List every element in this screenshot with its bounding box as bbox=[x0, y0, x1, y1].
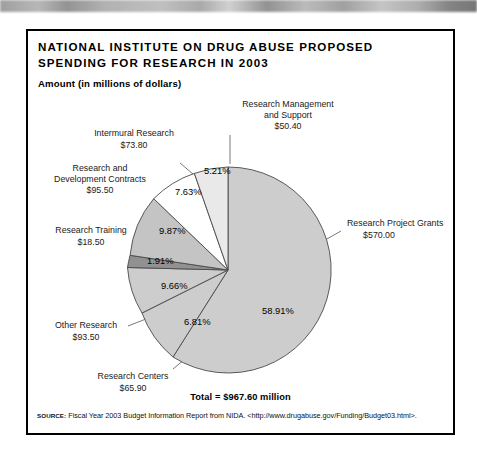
callout-research-training-line1: Research Training bbox=[55, 225, 126, 235]
callout-research-development-contracts-line1: Research and bbox=[73, 163, 128, 173]
callout-research-management-support-amount: $50.40 bbox=[275, 121, 302, 131]
callout-research-development-contracts-amount: $95.50 bbox=[87, 185, 114, 195]
callout-research-management-support-line1: Research Management bbox=[242, 99, 334, 109]
callout-research-project-grants-line1: Research Project Grants bbox=[347, 218, 444, 228]
callout-other-research-amount: $93.50 bbox=[73, 332, 100, 342]
callout-research-development-contracts-line2: Development Contracts bbox=[54, 174, 147, 184]
pct-label-research-centers: 6.81% bbox=[184, 316, 211, 327]
callout-research-project-grants-amount: $570.00 bbox=[363, 230, 395, 240]
callout-research-training-amount: $18.50 bbox=[78, 237, 105, 247]
source-note: source: Fiscal Year 2003 Budget Informat… bbox=[37, 411, 445, 420]
pct-label-research-training: 1.91% bbox=[147, 255, 174, 266]
callout-research-management-support-line2: and Support bbox=[264, 110, 312, 120]
chart-total: Total = $967.60 million bbox=[28, 392, 453, 402]
pie-chart: 58.91% 6.81% 9.66% 1.91% 9.87% 7.63% 5.2… bbox=[28, 31, 457, 437]
callout-intermural-research-amount: $73.80 bbox=[121, 140, 148, 150]
pct-label-research-management-support: 5.21% bbox=[204, 165, 231, 176]
figure-frame: NATIONAL INSTITUTE ON DRUG ABUSE PROPOSE… bbox=[26, 29, 455, 435]
pct-label-other-research: 9.66% bbox=[161, 280, 188, 291]
source-kicker: source: bbox=[37, 412, 66, 419]
callout-intermural-research-line1: Intermural Research bbox=[94, 128, 174, 138]
page-top-banner bbox=[0, 0, 477, 12]
pct-label-research-development-contracts: 9.87% bbox=[159, 225, 186, 236]
pct-label-intermural-research: 7.63% bbox=[175, 186, 202, 197]
pie-chart-svg: 58.91% 6.81% 9.66% 1.91% 9.87% 7.63% 5.2… bbox=[28, 31, 457, 437]
pct-label-research-project-grants: 58.91% bbox=[262, 305, 294, 316]
source-text: Fiscal Year 2003 Budget Information Repo… bbox=[68, 411, 417, 420]
callout-other-research-line1: Other Research bbox=[55, 320, 117, 330]
callout-research-centers-line1: Research Centers bbox=[98, 371, 169, 381]
